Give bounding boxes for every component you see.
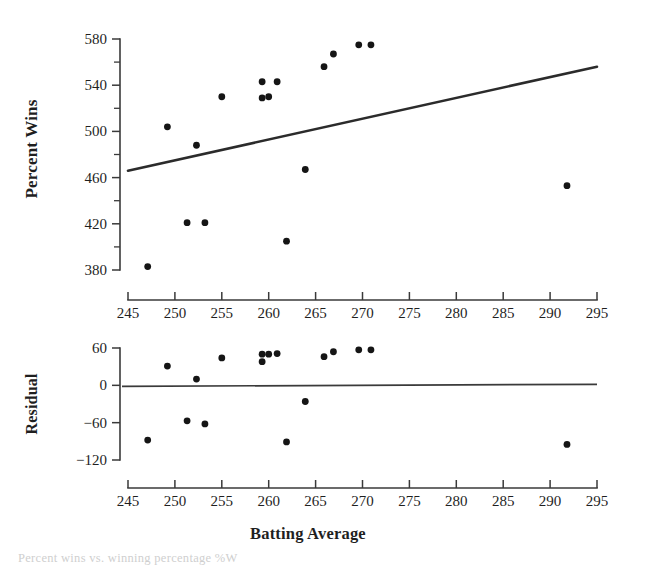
residual-point (193, 376, 200, 383)
zero-reference-line (122, 384, 597, 386)
data-point (355, 41, 362, 48)
bottom-x-tick-label: 270 (351, 493, 374, 509)
data-point (259, 95, 266, 102)
top-x-tick-label: 295 (586, 305, 609, 321)
residual-point (202, 421, 209, 428)
top-y-tick-label: 460 (85, 170, 108, 186)
data-point (193, 142, 200, 149)
top-x-tick-label: 290 (539, 305, 562, 321)
bottom-x-tick-label: 260 (257, 493, 280, 509)
data-point (202, 219, 209, 226)
residual-point (564, 441, 571, 448)
residual-point (164, 363, 171, 370)
bottom-y-tick-label: −60 (84, 415, 107, 431)
data-point (321, 63, 328, 70)
data-point (283, 238, 290, 245)
top-x-tick-label: 285 (492, 305, 515, 321)
top-x-tick-label: 250 (164, 305, 187, 321)
top-y-tick-label: 500 (85, 123, 108, 139)
bottom-x-tick-label: 265 (304, 493, 327, 509)
residual-point (184, 417, 191, 424)
data-point (265, 93, 272, 100)
chart-canvas: 3804204605005405802452502552602652702752… (0, 0, 645, 568)
data-point (274, 78, 281, 85)
top-panel-y-axis-label: Percent Wins (22, 83, 42, 215)
residual-point (321, 353, 328, 360)
bottom-y-tick-label: −120 (76, 452, 107, 468)
data-point (330, 51, 337, 58)
figure-container: 3804204605005405802452502552602652702752… (0, 0, 645, 568)
bottom-y-tick-label: 0 (100, 377, 108, 393)
bottom-x-tick-label: 250 (164, 493, 187, 509)
regression-line (128, 67, 597, 171)
top-x-tick-label: 260 (257, 305, 280, 321)
bottom-x-tick-label: 290 (539, 493, 562, 509)
bottom-x-tick-label: 295 (586, 493, 609, 509)
data-point (144, 263, 151, 270)
data-point (302, 166, 309, 173)
top-x-tick-label: 270 (351, 305, 374, 321)
bottom-x-tick-label: 275 (398, 493, 421, 509)
data-point (564, 182, 571, 189)
top-x-tick-label: 265 (304, 305, 327, 321)
top-x-tick-label: 275 (398, 305, 421, 321)
data-point (184, 219, 191, 226)
data-point (368, 41, 375, 48)
residual-point (144, 437, 151, 444)
top-y-tick-label: 540 (85, 77, 108, 93)
bottom-y-tick-label: 60 (92, 340, 107, 356)
percent-wins-panel: 3804204605005405802452502552602652702752… (85, 31, 609, 321)
top-x-tick-label: 245 (117, 305, 140, 321)
residual-point (330, 348, 337, 355)
residual-point (302, 398, 309, 405)
data-point (164, 123, 171, 130)
bottom-x-tick-label: 245 (117, 493, 140, 509)
residual-point (283, 439, 290, 446)
residual-point (218, 355, 225, 362)
top-x-tick-label: 280 (445, 305, 468, 321)
residual-point (259, 351, 266, 358)
residual-point (265, 351, 272, 358)
data-point (259, 78, 266, 85)
bottom-x-tick-label: 255 (211, 493, 234, 509)
bottom-x-tick-label: 280 (445, 493, 468, 509)
residual-point (368, 346, 375, 353)
top-y-tick-label: 580 (85, 31, 108, 47)
bottom-panel-y-axis-label: Residual (23, 352, 41, 456)
residual-point (274, 350, 281, 357)
top-y-tick-label: 380 (85, 262, 108, 278)
data-point (218, 93, 225, 100)
residual-point (355, 346, 362, 353)
x-axis-label: Batting Average (250, 524, 366, 544)
bottom-x-tick-label: 285 (492, 493, 515, 509)
residual-panel: −120−60060245250255260265270275280285290… (76, 340, 608, 509)
top-x-tick-label: 255 (211, 305, 234, 321)
residual-point (259, 358, 266, 365)
top-y-tick-label: 420 (85, 216, 108, 232)
figure-caption-fragment: Percent wins vs. winning percentage %W (18, 551, 628, 568)
